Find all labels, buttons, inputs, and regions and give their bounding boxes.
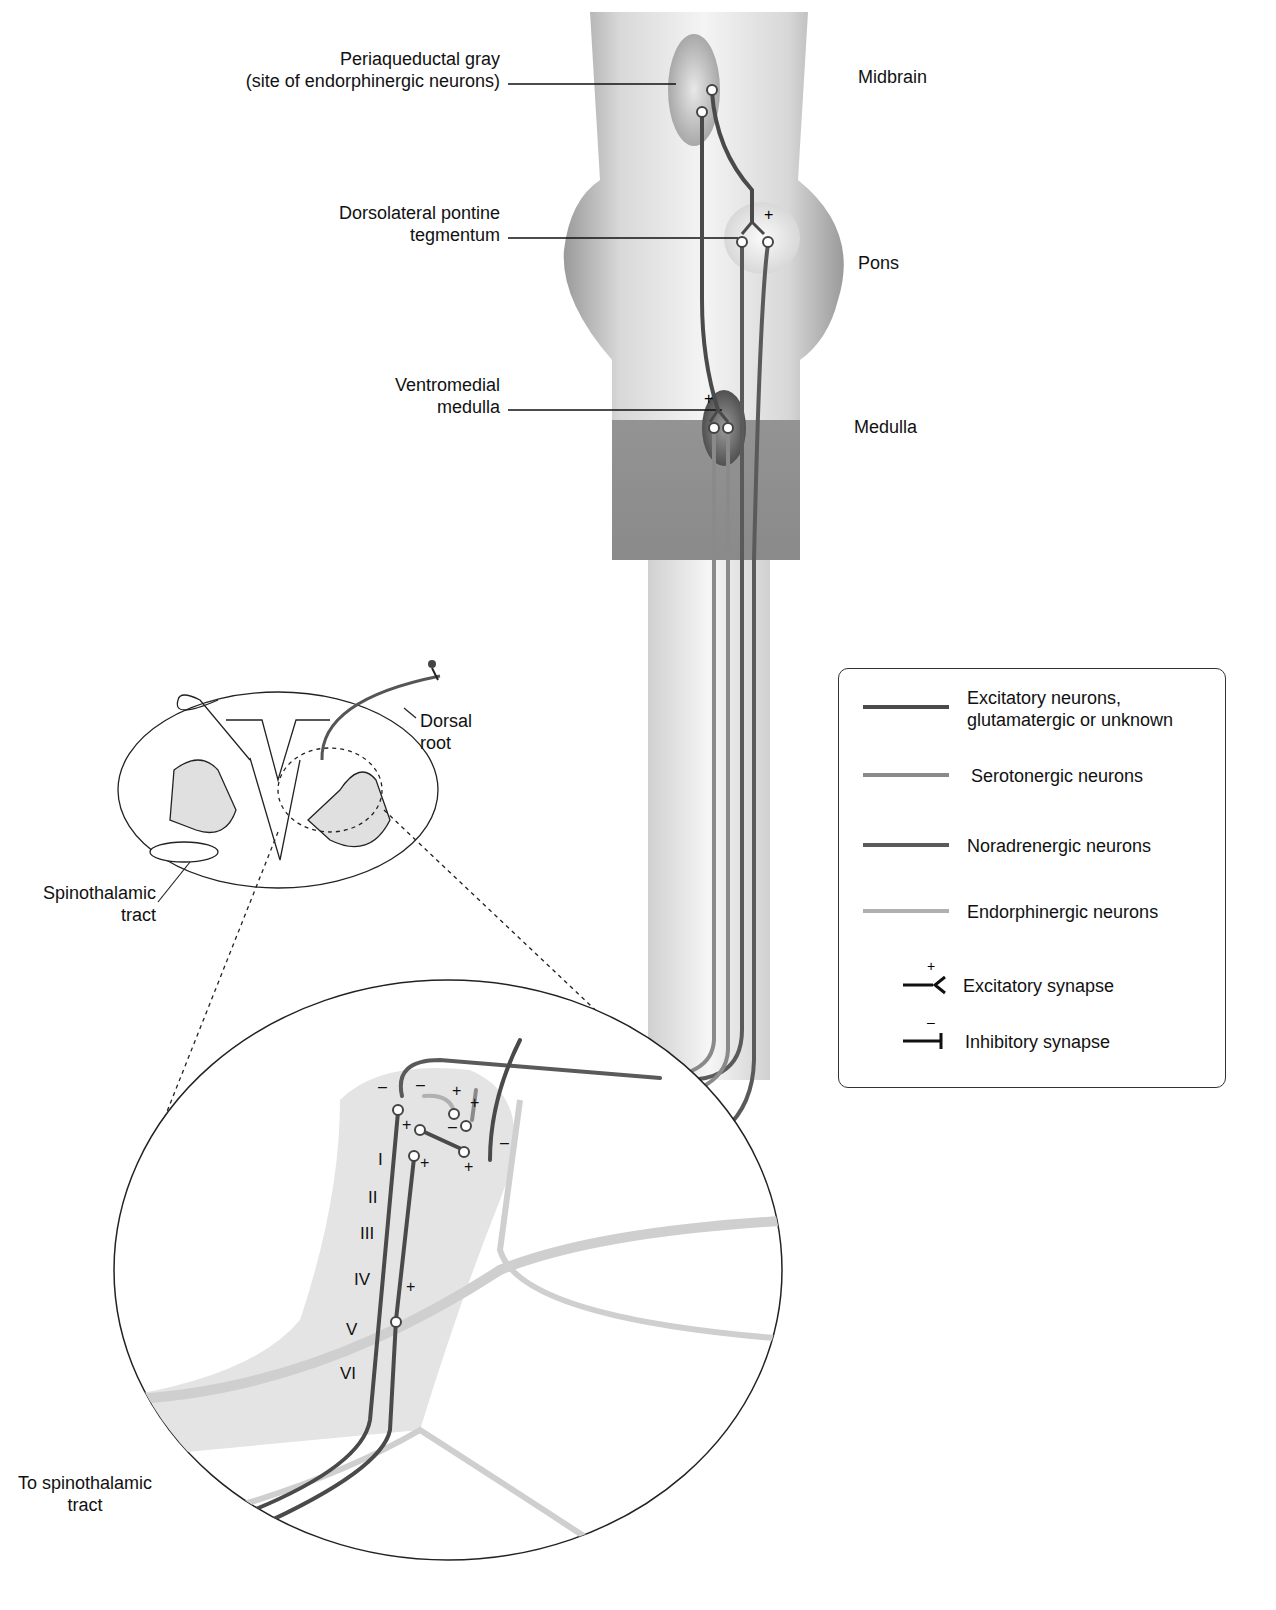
label-text: (site of endorphinergic neurons) — [180, 70, 500, 92]
label-text: medulla — [200, 396, 500, 418]
legend-text: Inhibitory synapse — [965, 1031, 1110, 1053]
legend-text: glutamatergic or unknown — [967, 709, 1173, 731]
label-text: tegmentum — [200, 224, 500, 246]
spinal-cross-section — [118, 676, 440, 888]
label-spinothalamic-tract: Spinothalamic tract — [10, 882, 156, 926]
inhibitory-synapse-icon: – — [903, 1015, 963, 1055]
svg-text:+: + — [464, 1158, 473, 1175]
lamina-label: V — [346, 1320, 357, 1340]
label-text: Ventromedial — [200, 374, 500, 396]
legend-label: Excitatory neurons, glutamatergic or unk… — [967, 687, 1173, 731]
svg-text:+: + — [704, 390, 713, 407]
legend-item-inhibitory-synapse: – Inhibitory synapse — [839, 1015, 1225, 1055]
svg-text:–: – — [448, 1118, 457, 1135]
legend-item-excitatory-synapse: + Excitatory synapse — [839, 959, 1225, 999]
svg-text:+: + — [406, 1278, 415, 1295]
label-text: Dorsal — [420, 710, 472, 732]
svg-text:–: – — [416, 1076, 425, 1093]
lamina-label: III — [360, 1224, 374, 1244]
label-midbrain: Midbrain — [858, 66, 927, 88]
lamina-label: VI — [340, 1364, 356, 1384]
legend-text: Excitatory neurons, — [967, 687, 1173, 709]
svg-text:+: + — [452, 1082, 461, 1099]
lamina-label: II — [368, 1188, 377, 1208]
label-text: Dorsolateral pontine — [200, 202, 500, 224]
label-to-spinothalamic-tract: To spinothalamic tract — [0, 1472, 170, 1516]
legend-text: Excitatory synapse — [963, 975, 1114, 997]
excitatory-synapse-icon: + — [903, 959, 963, 999]
label-text: To spinothalamic — [0, 1472, 170, 1494]
label-dorsal-root: Dorsal root — [420, 710, 472, 754]
legend-text: Noradrenergic neurons — [967, 835, 1151, 857]
svg-text:+: + — [927, 959, 935, 974]
svg-text:–: – — [378, 1078, 387, 1095]
label-pons: Pons — [858, 252, 899, 274]
label-medulla: Medulla — [854, 416, 917, 438]
svg-text:+: + — [420, 1154, 429, 1171]
legend-text: Endorphinergic neurons — [967, 901, 1158, 923]
legend-swatch — [863, 843, 949, 847]
lamina-label: IV — [354, 1270, 370, 1290]
svg-text:–: – — [500, 1134, 509, 1151]
label-ventromedial-medulla: Ventromedial medulla — [200, 374, 500, 418]
label-dorsolateral-pontine-tegmentum: Dorsolateral pontine tegmentum — [200, 202, 500, 246]
spinal-cord-shaft — [648, 560, 770, 1080]
svg-text:+: + — [764, 206, 773, 223]
legend-swatch — [863, 773, 949, 777]
label-text: tract — [10, 904, 156, 926]
label-periaqueductal-gray: Periaqueductal gray (site of endorphiner… — [180, 48, 500, 92]
legend-swatch — [863, 909, 949, 913]
label-text: Spinothalamic — [10, 882, 156, 904]
svg-text:+: + — [470, 1094, 479, 1111]
legend: Excitatory neurons, glutamatergic or unk… — [838, 668, 1226, 1088]
label-text: tract — [0, 1494, 170, 1516]
legend-swatch — [863, 705, 949, 709]
svg-text:+: + — [402, 1116, 411, 1133]
label-text: Periaqueductal gray — [180, 48, 500, 70]
label-text: root — [420, 732, 472, 754]
legend-text: Serotonergic neurons — [971, 765, 1143, 787]
lamina-label: I — [378, 1150, 383, 1170]
svg-text:–: – — [927, 1015, 935, 1030]
